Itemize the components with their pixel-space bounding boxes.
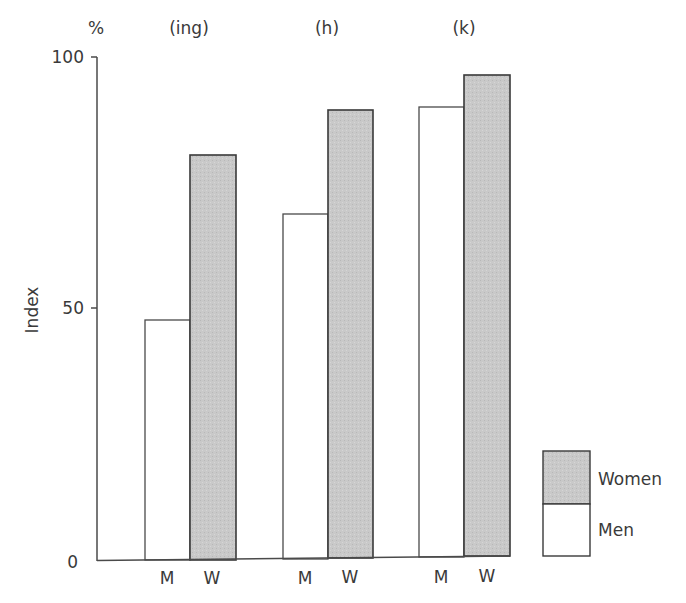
unit-label: % [88, 18, 104, 38]
legend-label-women: Women [598, 469, 662, 489]
legend-swatch-women [543, 451, 590, 504]
x-label-w-ing: W [204, 568, 221, 588]
x-label-m-h: M [298, 568, 313, 588]
group-label-ing: (ing) [169, 18, 209, 38]
bar-men-ing [145, 320, 190, 560]
y-axis [91, 57, 97, 561]
y-tick-50: 50 [62, 298, 84, 318]
x-label-m-k: M [434, 567, 449, 587]
x-label-w-h: W [342, 567, 359, 587]
legend: Women Men [543, 451, 662, 556]
bar-men-h [283, 214, 328, 559]
y-axis-label: Index [22, 287, 42, 334]
y-tick-0: 0 [67, 552, 78, 572]
bar-men-k [419, 107, 464, 557]
bar-women-h [328, 110, 373, 558]
y-tick-100: 100 [52, 47, 84, 67]
group-label-k: (k) [452, 18, 475, 38]
x-label-m-ing: M [160, 568, 175, 588]
bar-women-ing [190, 155, 236, 560]
group-label-h: (h) [315, 18, 339, 38]
bar-women-k [464, 75, 510, 556]
legend-label-men: Men [598, 520, 634, 540]
bar-chart: % (ing) (h) (k) 100 50 0 Index M W M W M… [0, 0, 686, 603]
x-label-w-k: W [479, 566, 496, 586]
legend-swatch-men [543, 504, 590, 556]
